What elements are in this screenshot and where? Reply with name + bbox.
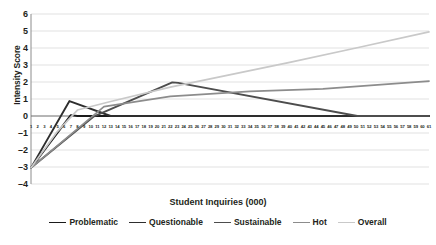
x-tick-label: 51 (360, 124, 364, 129)
legend-swatch-icon (214, 222, 231, 223)
x-tick-label: 11 (95, 124, 99, 129)
x-tick-label: 48 (341, 124, 345, 129)
legend-label: Questionable (149, 217, 203, 227)
x-tick-label: 25 (188, 124, 192, 129)
x-tick-label: 40 (288, 124, 292, 129)
x-tick-label: 15 (122, 124, 126, 129)
x-tick-label: 50 (354, 124, 358, 129)
legend-label: Hot (313, 217, 327, 227)
x-tick-label: 46 (327, 124, 331, 129)
x-tick-label: 24 (181, 124, 185, 129)
x-tick-label: 57 (400, 124, 404, 129)
legend-swatch-icon (49, 222, 66, 223)
x-tick-label: 42 (301, 124, 305, 129)
legend-swatch-icon (293, 222, 310, 223)
x-tick-label: 3 (43, 124, 45, 129)
x-tick-label: 26 (195, 124, 199, 129)
legend-item-questionable[interactable]: Questionable (129, 217, 203, 227)
data-series (31, 32, 429, 168)
x-tick-label: 30 (221, 124, 225, 129)
x-tick-label: 32 (234, 124, 238, 129)
x-tick-label: 20 (155, 124, 159, 129)
x-tick-label: 60 (420, 124, 424, 129)
x-tick-label: 41 (294, 124, 298, 129)
x-tick-label: 16 (128, 124, 132, 129)
x-tick-label: 56 (394, 124, 398, 129)
plot-canvas (0, 0, 436, 195)
x-tick-label: 61 (427, 124, 431, 129)
x-tick-label: 4 (50, 124, 52, 129)
legend-label: Problematic (69, 217, 118, 227)
x-tick-label: 9 (83, 124, 85, 129)
x-tick-label: 28 (208, 124, 212, 129)
x-axis-tick-labels: 1234567891011121314151617181920212223242… (31, 124, 429, 136)
x-tick-label: 53 (374, 124, 378, 129)
x-tick-label: 29 (215, 124, 219, 129)
x-tick-label: 43 (307, 124, 311, 129)
legend-label: Sustainable (234, 217, 282, 227)
x-tick-label: 47 (334, 124, 338, 129)
x-tick-label: 8 (76, 124, 78, 129)
x-tick-label: 58 (407, 124, 411, 129)
legend-swatch-icon (129, 222, 146, 223)
x-tick-label: 31 (228, 124, 232, 129)
x-tick-label: 38 (274, 124, 278, 129)
x-tick-label: 23 (175, 124, 179, 129)
x-tick-label: 27 (201, 124, 205, 129)
x-tick-label: 55 (387, 124, 391, 129)
chart-legend: ProblematicQuestionableSustainableHotOve… (0, 217, 436, 227)
x-tick-label: 14 (115, 124, 119, 129)
x-tick-label: 54 (380, 124, 384, 129)
x-tick-label: 39 (281, 124, 285, 129)
x-tick-label: 10 (89, 124, 93, 129)
x-tick-label: 1 (30, 124, 32, 129)
legend-item-hot[interactable]: Hot (293, 217, 327, 227)
legend-item-overall[interactable]: Overall (338, 217, 387, 227)
x-tick-label: 12 (102, 124, 106, 129)
x-tick-label: 19 (148, 124, 152, 129)
x-tick-label: 37 (268, 124, 272, 129)
legend-swatch-icon (338, 222, 355, 223)
legend-item-problematic[interactable]: Problematic (49, 217, 118, 227)
x-tick-label: 2 (37, 124, 39, 129)
x-tick-label: 52 (367, 124, 371, 129)
x-axis-title: Student Inquiries (000) (0, 197, 436, 207)
x-tick-label: 35 (254, 124, 258, 129)
x-tick-label: 6 (63, 124, 65, 129)
x-tick-label: 59 (414, 124, 418, 129)
series-line-overall (31, 32, 429, 168)
x-tick-label: 33 (241, 124, 245, 129)
x-tick-label: 13 (108, 124, 112, 129)
gridlines (31, 14, 429, 184)
x-tick-label: 17 (135, 124, 139, 129)
x-tick-label: 18 (142, 124, 146, 129)
x-tick-label: 36 (261, 124, 265, 129)
plot-area: Intensity Score 6543210–1–2–3–4 12345678… (0, 0, 436, 195)
x-tick-label: 22 (168, 124, 172, 129)
legend-item-sustainable[interactable]: Sustainable (214, 217, 282, 227)
x-tick-label: 44 (314, 124, 318, 129)
x-tick-label: 5 (56, 124, 58, 129)
legend-label: Overall (358, 217, 387, 227)
line-chart: Intensity Score 6543210–1–2–3–4 12345678… (0, 0, 436, 245)
x-tick-label: 21 (161, 124, 165, 129)
x-tick-label: 49 (347, 124, 351, 129)
x-tick-label: 34 (248, 124, 252, 129)
x-tick-label: 7 (70, 124, 72, 129)
x-tick-label: 45 (321, 124, 325, 129)
